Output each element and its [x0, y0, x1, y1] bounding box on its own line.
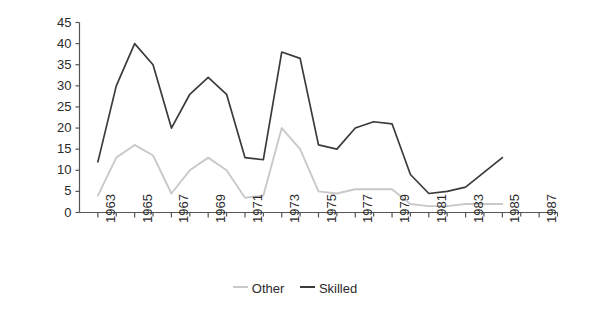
- legend-label-skilled: Skilled: [319, 281, 357, 296]
- x-tick-label: 1967: [177, 194, 190, 223]
- x-tick-label: 1963: [104, 194, 117, 223]
- x-tick-label: 1979: [398, 194, 411, 223]
- legend-item-other: Other: [233, 280, 285, 296]
- x-tick-label: 1969: [214, 194, 227, 223]
- y-tick-label: 10: [42, 163, 72, 176]
- x-tick-label: 1977: [361, 194, 374, 223]
- series-line-skilled: [98, 44, 502, 194]
- y-tick-label: 30: [42, 79, 72, 92]
- y-tick-label: 20: [42, 121, 72, 134]
- x-tick-label: 1981: [435, 194, 448, 223]
- x-tick-label: 1987: [545, 194, 558, 223]
- y-tick-label: 5: [42, 184, 72, 197]
- legend-label-other: Other: [252, 281, 285, 296]
- x-tick-label: 1973: [288, 194, 301, 223]
- legend-swatch-other: [233, 286, 248, 288]
- y-tick-label: 45: [42, 16, 72, 29]
- legend-swatch-skilled: [300, 286, 315, 288]
- y-tick-label: 40: [42, 37, 72, 50]
- chart-legend: Other Skilled: [0, 279, 590, 296]
- y-tick-label: 35: [42, 58, 72, 71]
- x-tick-label: 1965: [141, 194, 154, 223]
- y-tick-label: 25: [42, 100, 72, 113]
- x-tick-label: 1983: [472, 194, 485, 223]
- x-tick-label: 1971: [251, 194, 264, 223]
- y-tick-label: 15: [42, 142, 72, 155]
- x-tick-label: 1975: [325, 194, 338, 223]
- x-tick-label: 1985: [508, 194, 521, 223]
- chart-figure: Firms reporting shortage (%) 05101520253…: [0, 0, 590, 309]
- y-tick-label: 0: [42, 206, 72, 219]
- plot-area: [0, 0, 590, 309]
- legend-item-skilled: Skilled: [300, 280, 357, 296]
